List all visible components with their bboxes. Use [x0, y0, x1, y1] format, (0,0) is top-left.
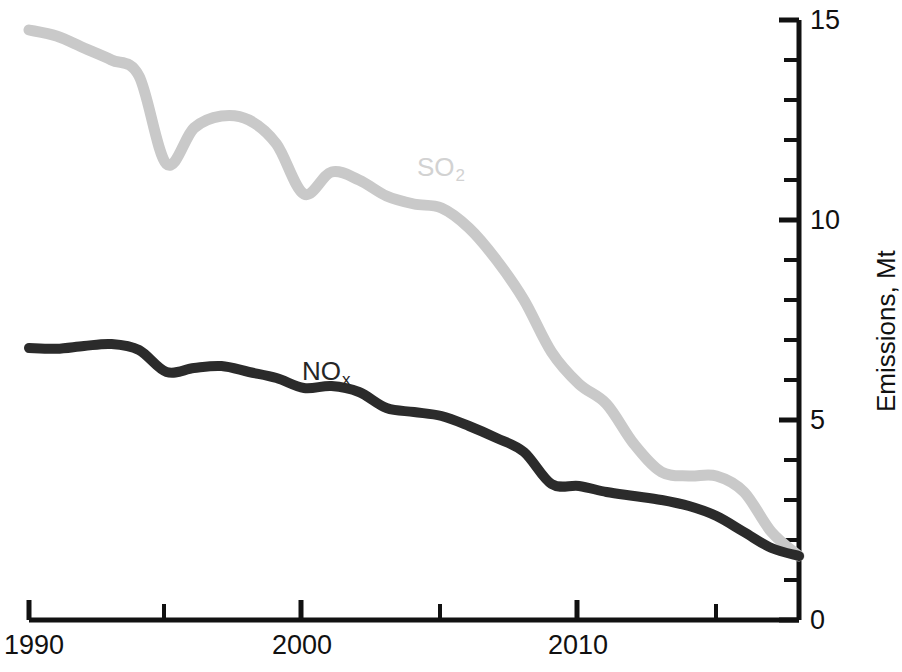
series-line-so2: [29, 30, 799, 556]
series-line-nox: [29, 344, 799, 556]
x-tick-label-2010: 2010: [548, 630, 608, 661]
y-tick-label-5: 5: [810, 405, 825, 436]
y-tick-label-0: 0: [810, 605, 825, 636]
x-tick-label-1990: 1990: [4, 630, 64, 661]
series-label-so2-text: SO: [417, 152, 455, 182]
x-tick-label-2000: 2000: [272, 630, 332, 661]
series-label-so2-subscript: 2: [456, 166, 465, 185]
series-label-nox-text: NO: [302, 356, 341, 386]
series-label-nox-subscript: x: [342, 370, 351, 389]
y-axis-title: Emissions, Mt: [871, 250, 902, 412]
y-tick-label-15: 15: [810, 5, 840, 36]
series-label-so2: SO2: [417, 152, 464, 183]
y-axis-major-ticks: [779, 20, 799, 620]
x-axis-major-ticks: [29, 600, 577, 620]
y-tick-label-10: 10: [810, 205, 840, 236]
series-label-nox: NOx: [302, 356, 350, 387]
